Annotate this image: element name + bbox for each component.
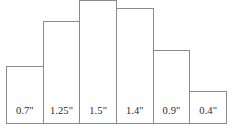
bars-area: 0.7" 1.25" 1.5" 1.4" 0.9" 0.4" (6, 0, 227, 124)
bar-chart: 0.7" 1.25" 1.5" 1.4" 0.9" 0.4" (0, 0, 235, 138)
bar-4: 0.9" (153, 50, 191, 124)
bar-3: 1.4" (116, 8, 154, 124)
bar-label-3: 1.4" (126, 106, 144, 124)
bar-label-4: 0.9" (163, 106, 181, 124)
bar-5: 0.4" (189, 91, 227, 124)
bar-label-5: 0.4" (199, 106, 217, 124)
bar-2: 1.5" (79, 0, 117, 124)
bar-1: 1.25" (43, 21, 81, 124)
bar-label-1: 1.25" (50, 106, 73, 124)
bar-label-2: 1.5" (89, 106, 107, 124)
bar-label-0: 0.7" (16, 106, 34, 124)
bar-0: 0.7" (6, 66, 44, 124)
